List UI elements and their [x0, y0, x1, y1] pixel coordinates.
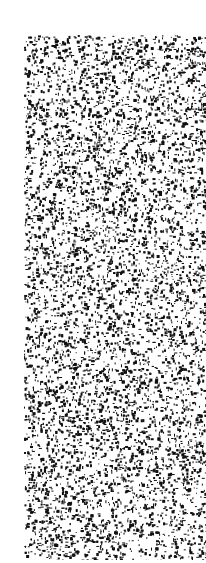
noise-texture [24, 35, 206, 560]
